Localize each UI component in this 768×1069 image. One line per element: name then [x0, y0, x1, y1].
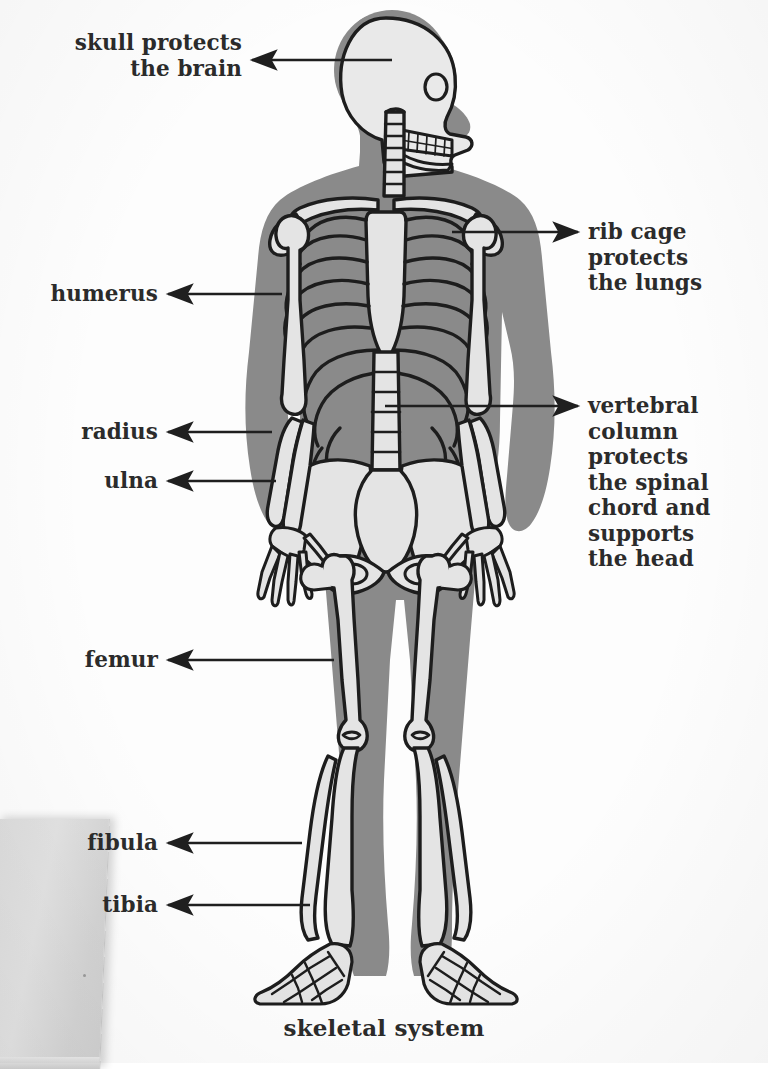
diagram-caption: skeletal system [0, 1014, 768, 1041]
vertebral-column [372, 352, 400, 470]
label-humerus: humerus [10, 281, 158, 307]
foot-right [420, 944, 517, 1004]
label-tibia: tibia [10, 892, 158, 918]
label-ribcage: rib cage protects the lungs [588, 219, 764, 296]
bones [255, 18, 517, 1004]
label-vertebral: vertebral column protects the spinal cho… [588, 393, 764, 572]
label-fibula: fibula [10, 830, 158, 856]
label-femur: femur [10, 647, 158, 673]
label-ulna: ulna [10, 468, 158, 494]
patella-right [412, 732, 429, 739]
label-radius: radius [10, 419, 158, 445]
label-skull: skull protects the brain [30, 30, 242, 81]
foot-left [255, 944, 352, 1004]
cervical-vertebrae [384, 109, 404, 196]
patella-left [343, 732, 360, 739]
